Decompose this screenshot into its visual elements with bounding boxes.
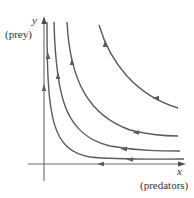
phase-plane-diagram: y (prey) x (predators) — [0, 0, 194, 198]
y-axis-flow-arrow-icon — [42, 84, 46, 91]
trajectory-2 — [54, 22, 180, 151]
trajectory-1 — [46, 22, 184, 162]
x-axis-variable-label: x — [176, 165, 182, 177]
trajectories — [46, 22, 184, 162]
trajectory-1-flow-arrow-2-icon — [127, 157, 134, 162]
y-axis-variable-label: y — [31, 14, 37, 26]
trajectory-1-curve — [47, 22, 184, 159]
trajectory-2-flow-arrow-1-icon — [56, 73, 61, 80]
axes — [28, 16, 186, 181]
trajectory-4-flow-arrow-2-icon — [153, 96, 160, 101]
trajectory-3 — [67, 22, 178, 136]
x-axis-flow-arrow-icon — [97, 162, 104, 166]
trajectory-3-curve — [67, 22, 178, 136]
y-axis-description-label: (prey) — [5, 28, 32, 41]
x-axis-description-label: (predators) — [140, 179, 189, 192]
trajectory-3-flow-arrow-1-icon — [70, 59, 75, 66]
trajectory-1-flow-arrow-1-icon — [46, 53, 51, 60]
trajectory-2-curve — [54, 22, 180, 151]
y-axis-arrowhead-icon — [42, 16, 47, 24]
trajectory-4-curve — [99, 25, 178, 108]
trajectory-4 — [99, 25, 178, 108]
